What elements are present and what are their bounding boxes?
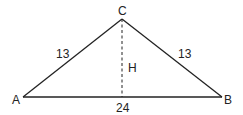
- vertex-a-label: A: [12, 93, 20, 107]
- triangle-diagram: C A B 13 13 24 H: [0, 0, 243, 115]
- height-label: H: [128, 61, 137, 75]
- side-bc-length-label: 13: [178, 47, 192, 61]
- side-ab-length-label: 24: [116, 101, 130, 115]
- side-bc: [122, 19, 222, 97]
- side-ac-length-label: 13: [56, 47, 70, 61]
- vertex-b-label: B: [224, 93, 232, 107]
- side-ac: [23, 19, 122, 97]
- vertex-c-label: C: [118, 4, 127, 18]
